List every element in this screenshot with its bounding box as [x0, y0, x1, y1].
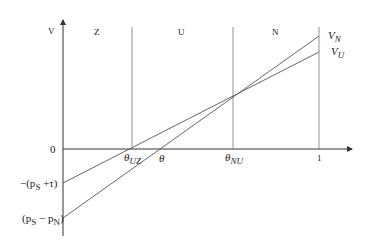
vn-line — [63, 36, 319, 218]
region-n-label: N — [272, 27, 279, 37]
theta-uz-label: θUZ — [124, 151, 142, 166]
vu-label: VU — [331, 45, 345, 60]
vu-line — [63, 52, 319, 183]
x-axis-label: θ — [159, 152, 165, 164]
diagram-canvas: V θ Z U N 0 1 θUZ θNU VN VU −(pS +τ) (pS… — [0, 0, 372, 246]
vn-label: VN — [328, 29, 342, 44]
theta-nu-label: θNU — [225, 151, 243, 166]
region-z-label: Z — [94, 27, 100, 37]
y-axis-label: V — [48, 26, 55, 36]
region-u-label: U — [178, 27, 185, 37]
vu-intercept-label: −(pS +τ) — [20, 177, 58, 192]
vn-intercept-label: (pS − pN) — [22, 212, 64, 227]
zero-label: 0 — [50, 143, 56, 155]
one-label: 1 — [317, 153, 322, 163]
